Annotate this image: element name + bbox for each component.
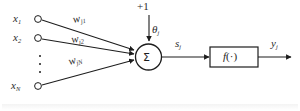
input-nodes	[35, 16, 42, 90]
ellipsis-dot	[39, 55, 41, 57]
connection-N	[42, 60, 134, 85]
weight-label-2: wj2	[70, 32, 84, 45]
weight-connections	[42, 20, 134, 85]
input-label-N: xN	[11, 80, 20, 91]
bias-label: +1	[137, 1, 149, 12]
ellipsis-dot	[39, 63, 41, 65]
diagram-canvas	[0, 0, 300, 111]
sigma-icon: Σ	[143, 51, 150, 64]
output-label: yj	[271, 38, 278, 49]
weight-label-1: wj1	[72, 12, 86, 25]
input-label-1: x1	[13, 13, 21, 24]
inputs-ellipsis	[38, 55, 41, 73]
net-input-label: sj	[175, 38, 181, 49]
input-node-N	[35, 83, 42, 90]
ellipsis-dot	[39, 71, 41, 73]
input-label-2: x2	[13, 32, 21, 43]
activation-function-label: f(·)	[223, 50, 237, 62]
connection-2	[42, 39, 134, 54]
threshold-label: θj	[152, 24, 159, 35]
input-node-1	[35, 16, 42, 23]
input-node-2	[35, 35, 42, 42]
connection-1	[42, 20, 134, 50]
neuron-diagram-figure: x1 x2 xN wj1 wj2 wjN +1 θj Σ sj f(·) yj	[0, 0, 300, 111]
weight-label-N: wjN	[67, 53, 83, 67]
